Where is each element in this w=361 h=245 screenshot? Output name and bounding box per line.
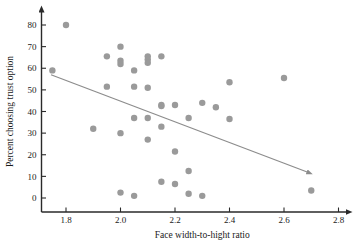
data-points <box>49 22 314 199</box>
data-point <box>185 190 191 196</box>
data-point <box>158 53 164 59</box>
data-point <box>117 61 123 67</box>
data-point <box>131 115 137 121</box>
data-point <box>145 60 151 66</box>
data-point <box>199 100 205 106</box>
data-point <box>145 115 151 121</box>
data-point <box>145 85 151 91</box>
data-point <box>185 168 191 174</box>
x-tick-label: 1.8 <box>60 215 72 225</box>
data-point <box>172 102 178 108</box>
data-point <box>308 187 314 193</box>
y-tick-label: 60 <box>28 63 38 73</box>
data-point <box>104 83 110 89</box>
y-tick-label: 80 <box>28 20 38 30</box>
axes <box>42 12 347 212</box>
data-point <box>117 130 123 136</box>
x-axis-title: Face width-to-hight ratio <box>155 230 250 240</box>
data-point <box>117 43 123 49</box>
data-point <box>158 103 164 109</box>
data-point <box>172 148 178 154</box>
data-point <box>63 22 69 28</box>
y-tick-label: 70 <box>28 42 38 52</box>
data-point <box>158 123 164 129</box>
data-point <box>185 115 191 121</box>
x-axis-ticks: 1.82.02.22.42.62.8 <box>60 208 344 226</box>
data-point <box>281 75 287 81</box>
scatter-chart: 1.82.02.22.42.62.801020304050607080Face … <box>0 0 361 245</box>
plot-area: 1.82.02.22.42.62.801020304050607080Face … <box>0 0 361 245</box>
y-tick-label: 0 <box>32 193 37 203</box>
x-tick-label: 2.0 <box>115 215 127 225</box>
data-point <box>104 53 110 59</box>
y-tick-label: 10 <box>28 172 38 182</box>
y-axis-ticks: 01020304050607080 <box>28 20 47 203</box>
data-point <box>226 116 232 122</box>
data-point <box>49 67 55 73</box>
x-tick-label: 2.2 <box>169 215 180 225</box>
data-point <box>213 104 219 110</box>
data-point <box>158 179 164 185</box>
data-point <box>131 193 137 199</box>
y-tick-label: 40 <box>28 107 38 117</box>
trend-line <box>51 75 307 172</box>
y-axis-title: Percent choosing trust option <box>5 56 15 167</box>
y-tick-label: 50 <box>28 85 38 95</box>
data-point <box>117 189 123 195</box>
data-point <box>131 83 137 89</box>
data-point <box>90 126 96 132</box>
y-tick-label: 30 <box>28 128 38 138</box>
data-point <box>199 193 205 199</box>
data-point <box>131 67 137 73</box>
y-tick-label: 20 <box>28 150 38 160</box>
data-point <box>226 79 232 85</box>
data-point <box>145 136 151 142</box>
x-tick-label: 2.4 <box>224 215 236 225</box>
x-tick-label: 2.6 <box>278 215 290 225</box>
data-point <box>172 181 178 187</box>
x-tick-label: 2.8 <box>333 215 345 225</box>
